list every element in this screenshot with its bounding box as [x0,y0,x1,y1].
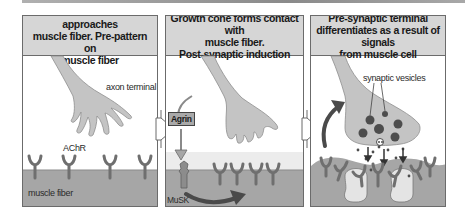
top-rule [22,0,465,3]
panel-approach: Growth cone of axon approaches muscle fi… [22,15,158,207]
axon-growth-cone-shape [201,56,278,143]
axon-terminal-label: axon terminal [106,82,156,92]
musk-label: MuSK [167,195,189,205]
agrin-label: Agrin [168,112,195,126]
axon-terminal-shape [51,56,132,136]
panel-presynaptic: Pre-synaptic terminal differentiates as … [310,15,446,207]
muscle-fiber-label: muscle fiber [28,188,73,198]
achr-label: AChR [63,143,86,153]
presynaptic-illustration [311,16,446,207]
approach-illustration [23,16,158,207]
panel-contact: Growth cone forms contact with muscle fi… [165,15,304,207]
synaptic-vesicles-label: synaptic vesicles [363,73,425,83]
